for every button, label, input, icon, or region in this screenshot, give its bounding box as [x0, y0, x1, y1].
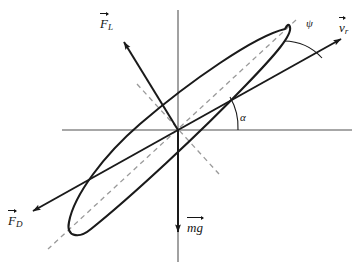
relative-velocity-label: vr: [339, 21, 348, 36]
physics-diagram: FL FD vr mg α ψ: [0, 0, 364, 265]
drag-symbol: F: [8, 213, 16, 228]
construction-lines: [48, 20, 296, 249]
weight-label: mg: [187, 221, 203, 234]
lift-subscript: L: [108, 22, 113, 32]
alpha-arc: [230, 97, 238, 130]
vector-group: [33, 39, 341, 232]
chord-line-dashed: [48, 20, 296, 249]
weight-symbol: mg: [187, 220, 203, 235]
psi-arc: [284, 41, 322, 58]
vector-arrow-icon: [339, 17, 345, 18]
drag-subscript: D: [16, 219, 23, 229]
lift-force-vector: [124, 42, 178, 130]
inclination-angle-psi-label: ψ: [306, 18, 313, 29]
vector-arrow-icon: [187, 217, 203, 218]
velocity-symbol: v: [339, 20, 345, 35]
vector-arrow-icon: [8, 210, 16, 211]
drag-force-vector: [33, 130, 178, 211]
lift-force-label: FL: [100, 17, 113, 32]
lift-symbol: F: [100, 16, 108, 31]
drag-force-label: FD: [8, 214, 23, 229]
diagram-canvas: [0, 0, 364, 265]
angle-of-attack-alpha-label: α: [240, 112, 246, 123]
vector-arrow-icon: [100, 13, 108, 14]
velocity-subscript: r: [345, 26, 349, 36]
